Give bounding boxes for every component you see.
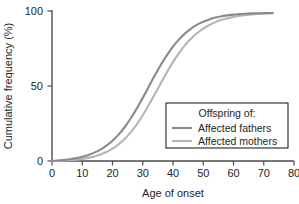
x-tick-label: 80 <box>288 167 299 179</box>
y-tick-label: 100 <box>25 5 43 17</box>
x-axis-tick-labels: 01020304050607080 <box>49 167 299 179</box>
chart-legend: Offspring of: Affected fathers Affected … <box>166 103 288 148</box>
x-tick-label: 50 <box>197 167 209 179</box>
x-tick-label: 10 <box>76 167 88 179</box>
legend-label-affected-mothers: Affected mothers <box>198 135 277 147</box>
x-tick-label: 20 <box>106 167 118 179</box>
x-axis-title: Age of onset <box>142 187 204 199</box>
y-axis-title: Cumulative frequency (%) <box>2 23 14 150</box>
x-tick-label: 60 <box>227 167 239 179</box>
legend-label-affected-fathers: Affected fathers <box>198 122 271 134</box>
x-tick-label: 70 <box>258 167 270 179</box>
x-tick-label: 0 <box>49 167 55 179</box>
y-tick-label: 0 <box>37 155 43 167</box>
x-tick-label: 30 <box>137 167 149 179</box>
x-tick-label: 40 <box>167 167 179 179</box>
legend-title: Offspring of: <box>198 107 255 119</box>
chart-figure: 01020304050607080 050100 Age of onset Cu… <box>0 0 299 204</box>
cumulative-frequency-chart: 01020304050607080 050100 Age of onset Cu… <box>0 0 299 204</box>
y-tick-label: 50 <box>31 80 43 92</box>
y-axis-tick-labels: 050100 <box>25 5 43 167</box>
